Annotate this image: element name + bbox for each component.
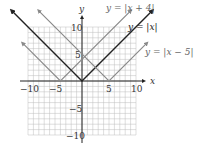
x-tick-label: 5 [106,84,112,94]
y-tick-label: 10 [71,23,83,33]
x-tick-label: 10 [131,84,143,94]
label-abs-x: y = |x| [127,22,158,33]
label-x-minus-5: y = |x − 5| [144,47,193,58]
absolute-value-graph: x y −10 −5 5 10 10 5 −5 −10 y = |x + 4| … [0,0,198,149]
x-axis-label: x [150,76,155,86]
x-tick-label: −5 [49,84,63,94]
y-tick-label: −5 [69,104,83,114]
y-axis-label: y [78,4,85,14]
tick-labels: −10 −5 5 10 10 5 −5 −10 [20,23,143,141]
x-tick-label: −10 [20,84,39,94]
y-tick-label: −10 [66,131,85,141]
label-x-plus-4: y = |x + 4| [105,3,154,14]
equation-labels: y = |x + 4| y = |x| y = |x − 5| [105,3,193,58]
